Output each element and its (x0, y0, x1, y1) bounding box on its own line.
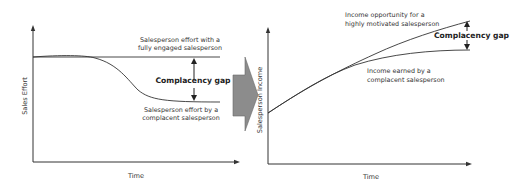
right-y-axis-arrow-icon (266, 27, 270, 33)
right-arrow-icon (233, 57, 258, 131)
engaged-effort-label-2: fully engaged salesperson (138, 44, 222, 52)
right-chart: Income opportunity for a highly motivate… (256, 11, 510, 181)
left-y-axis-arrow-icon (31, 25, 35, 31)
income-opportunity-label-2: highly motivated salesperson (345, 20, 439, 28)
right-x-axis-label: Time (362, 173, 379, 181)
right-y-axis-label: Salesperson Income (256, 67, 264, 134)
income-opportunity-label-1: Income opportunity for a (345, 11, 425, 19)
right-x-axis-arrow-icon (466, 162, 472, 166)
left-chart: Salesperson effort with a fully engaged … (21, 25, 240, 180)
left-x-axis-arrow-icon (234, 160, 240, 164)
complacent-effort-label-1: Salesperson effort by a (144, 106, 218, 114)
complacent-effort-label-2: complacent salesperson (142, 114, 220, 122)
left-x-axis-label: Time (127, 172, 144, 180)
left-y-axis-label: Sales Effort (21, 77, 29, 115)
income-earned-label-2: complacent salesperson (367, 76, 445, 84)
right-complacency-gap-label: Complacency gap (434, 31, 510, 40)
complacency-gap-diagram: Salesperson effort with a fully engaged … (0, 0, 520, 186)
left-complacency-gap-label: Complacency gap (155, 76, 231, 85)
income-earned-label-1: Income earned by a (367, 67, 431, 75)
engaged-effort-label-1: Salesperson effort with a (140, 36, 220, 44)
